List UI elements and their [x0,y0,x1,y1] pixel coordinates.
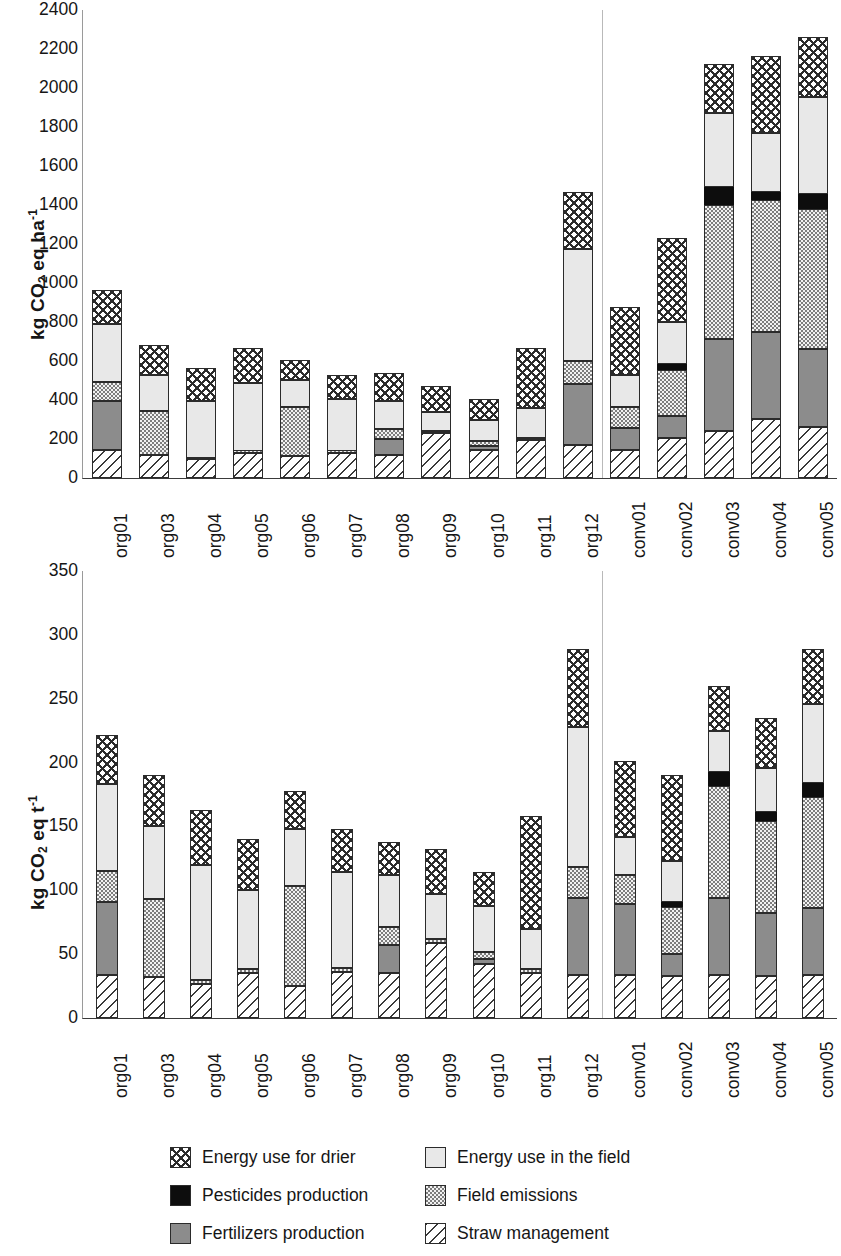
bar-segment-energy-use-in-the-field [96,784,118,871]
bar-org11 [520,571,542,1018]
bar-segment-straw-management [284,986,306,1018]
legend-item-field-emissions[interactable]: Field emissions [425,1185,578,1206]
bar-segment-energy-use-in-the-field [237,890,259,969]
bar-segment-fertilizers-production [563,384,593,444]
bar-segment-energy-use-in-the-field [92,324,122,383]
bar-segment-energy-use-for-drier [425,849,447,894]
chart-legend: Energy use for drierEnergy use in the fi… [170,1138,770,1252]
bar-segment-fertilizers-production [657,416,687,438]
bar-segment-energy-use-for-drier [614,761,636,836]
bar-segment-fertilizers-production [708,898,730,975]
bar-segment-field-emissions [473,952,495,960]
bar-segment-fertilizers-production [798,349,828,427]
bar-org04 [190,571,212,1018]
bar-segment-energy-use-for-drier [704,64,734,114]
legend-item-pesticides-production[interactable]: Pesticides production [170,1185,425,1206]
legend-swatch-pesticides-production [170,1185,191,1206]
x-tick-label-org08: org08 [395,1053,413,1098]
legend-item-energy-use-in-the-field[interactable]: Energy use in the field [425,1147,630,1168]
bar-segment-fertilizers-production [92,401,122,450]
y-tick-label: 2000 [6,79,78,97]
bar-segment-straw-management [802,975,824,1018]
panel-a-x-tick-labels: org01org03org04org05org06org07org08org09… [82,484,837,564]
legend-label: Fertilizers production [202,1223,364,1244]
y-tick-label: 100 [6,882,78,900]
bar-segment-fertilizers-production [751,332,781,419]
y-tick-label: 350 [6,562,78,580]
bar-segment-energy-use-for-drier [96,735,118,785]
x-tick-label-org11: org11 [537,515,555,558]
x-tick-label-org12: org12 [584,1053,602,1098]
bar-segment-energy-use-in-the-field [802,704,824,783]
legend-label: Energy use for drier [202,1147,356,1168]
bar-segment-energy-use-in-the-field [567,727,589,867]
legend-label: Energy use in the field [457,1147,630,1168]
bar-segment-field-emissions [237,969,259,973]
x-tick-label-org01: org01 [113,513,131,558]
bar-segment-energy-use-for-drier [327,375,357,399]
bar-segment-field-emissions [331,968,353,972]
bar-segment-energy-use-in-the-field [421,412,451,432]
y-tick-label: 600 [6,352,78,370]
legend-label: Straw management [457,1223,609,1244]
bar-org01 [96,571,118,1018]
panel-a-y-tick-labels: 0200400600800100012001400160018002000220… [0,0,78,500]
bar-segment-fertilizers-production [374,439,404,455]
bar-segment-field-emissions [280,407,310,456]
bar-segment-energy-use-for-drier [751,56,781,133]
bar-segment-energy-use-for-drier [469,399,499,420]
legend-row: Pesticides productionField emissions [170,1176,770,1214]
legend-row: Fertilizers productionStraw management [170,1214,770,1252]
bar-segment-energy-use-for-drier [421,386,451,411]
bar-segment-energy-use-in-the-field [704,113,734,187]
bar-conv05 [798,10,828,478]
bar-conv01 [610,10,640,478]
bar-segment-straw-management [280,456,310,478]
bar-segment-energy-use-for-drier [798,37,828,96]
bar-segment-field-emissions [96,871,118,902]
bar-org10 [473,571,495,1018]
x-tick-label-org04: org04 [207,513,225,558]
bar-segment-fertilizers-production [473,959,495,964]
bar-segment-straw-management [190,984,212,1018]
bar-segment-straw-management [92,450,122,478]
bar-org01 [92,10,122,478]
legend-item-straw-management[interactable]: Straw management [425,1223,609,1244]
bar-segment-pesticides-production [661,902,683,907]
bar-segment-straw-management [708,975,730,1018]
x-tick-label-org06: org06 [301,1053,319,1098]
bar-segment-fertilizers-production [614,904,636,974]
y-tick-label: 1200 [6,235,78,253]
bar-segment-field-emissions [374,429,404,439]
bar-segment-pesticides-production [802,783,824,797]
y-tick-label: 1400 [6,196,78,214]
x-tick-label-org05: org05 [254,513,272,558]
bar-segment-field-emissions [661,907,683,954]
bar-org04 [186,10,216,478]
bar-segment-field-emissions [704,205,734,339]
y-tick-label: 200 [6,430,78,448]
bar-segment-energy-use-in-the-field [233,383,263,450]
bar-conv02 [661,571,683,1018]
x-tick-label-org11: org11 [537,1055,555,1098]
legend-item-energy-use-for-drier[interactable]: Energy use for drier [170,1147,425,1168]
bar-segment-straw-management [374,455,404,478]
bar-segment-straw-management [567,975,589,1018]
panel-b-group-divider [602,571,603,1018]
bar-org08 [378,571,400,1018]
x-tick-label-org10: org10 [490,1053,508,1098]
bar-segment-straw-management [661,976,683,1018]
bar-segment-fertilizers-production [610,428,640,449]
bar-segment-straw-management [704,431,734,478]
bar-conv03 [708,571,730,1018]
bar-segment-energy-use-for-drier [567,649,589,727]
bar-segment-field-emissions [92,382,122,401]
bar-org03 [139,10,169,478]
x-tick-label-org07: org07 [348,1053,366,1098]
legend-item-fertilizers-production[interactable]: Fertilizers production [170,1223,425,1244]
bar-org05 [237,571,259,1018]
legend-label: Field emissions [457,1185,578,1206]
bar-segment-energy-use-in-the-field [755,768,777,813]
x-tick-label-conv05: conv05 [819,502,837,558]
bar-conv04 [751,10,781,478]
